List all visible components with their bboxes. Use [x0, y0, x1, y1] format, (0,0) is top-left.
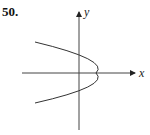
graph: x y: [0, 0, 150, 135]
y-axis-label: y: [83, 5, 90, 19]
x-axis-label: x: [138, 66, 145, 80]
